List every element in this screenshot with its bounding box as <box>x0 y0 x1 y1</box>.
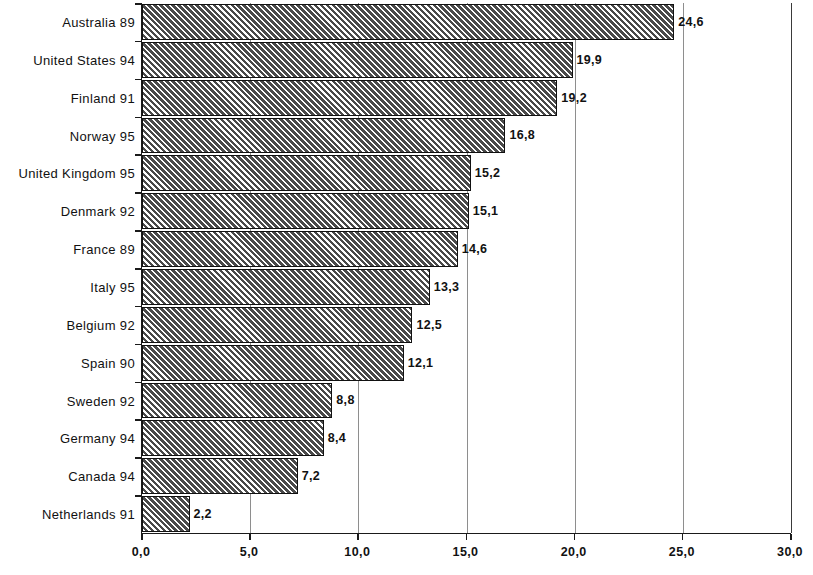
category-label: France 89 <box>73 242 135 257</box>
bar <box>142 118 505 154</box>
category-tick <box>135 382 141 384</box>
bar <box>142 269 430 305</box>
bar <box>142 307 412 343</box>
category-label: Italy 95 <box>90 279 135 294</box>
bar <box>142 420 324 456</box>
x-axis-tick <box>466 534 468 540</box>
bar-value-label: 15,2 <box>475 166 501 180</box>
x-axis-tick-label: 5,0 <box>240 545 259 559</box>
bar-value-label: 12,5 <box>416 318 442 332</box>
bar-value-label: 2,2 <box>194 507 212 521</box>
category-label: Norway 95 <box>70 128 135 143</box>
x-axis-tick-label: 30,0 <box>777 545 803 559</box>
bar <box>142 80 557 116</box>
bar <box>142 4 674 40</box>
x-axis-tick <box>574 534 576 540</box>
bar <box>142 383 332 419</box>
category-tick <box>135 419 141 421</box>
x-axis-tick-label: 25,0 <box>669 545 695 559</box>
bar-value-label: 8,8 <box>336 393 354 407</box>
bar <box>142 458 298 494</box>
category-tick <box>135 306 141 308</box>
category-label: Germany 94 <box>60 431 135 446</box>
bar-value-label: 12,1 <box>408 356 434 370</box>
bar-row: 19,9 <box>142 41 791 79</box>
bar-row: 16,8 <box>142 117 791 155</box>
bar-value-label: 8,4 <box>328 431 346 445</box>
category-label: Sweden 92 <box>67 393 135 408</box>
category-label: Spain 90 <box>81 355 135 370</box>
x-axis-tick <box>249 534 251 540</box>
bar-row: 14,6 <box>142 230 791 268</box>
x-axis-tick-label: 15,0 <box>453 545 479 559</box>
bar-value-label: 19,2 <box>561 91 587 105</box>
bar-row: 15,2 <box>142 154 791 192</box>
bar-row: 8,8 <box>142 382 791 420</box>
bar <box>142 42 573 78</box>
category-tick <box>135 192 141 194</box>
x-axis-tick-label: 0,0 <box>132 545 151 559</box>
x-axis-tick-label: 10,0 <box>344 545 370 559</box>
bar-value-label: 15,1 <box>473 204 499 218</box>
gridline-30-0 <box>791 3 792 533</box>
bar <box>142 496 190 532</box>
category-axis-labels: Australia 89United States 94Finland 91No… <box>0 3 135 533</box>
x-axis-tick-label: 20,0 <box>561 545 587 559</box>
bar-row: 15,1 <box>142 192 791 230</box>
category-label: Belgium 92 <box>66 317 135 332</box>
x-axis-tick <box>141 534 143 540</box>
category-label: Denmark 92 <box>61 204 135 219</box>
category-label: Finland 91 <box>71 90 135 105</box>
bar-value-label: 16,8 <box>509 128 535 142</box>
bar-row: 2,2 <box>142 495 791 533</box>
bar-value-label: 14,6 <box>462 242 488 256</box>
category-label: United States 94 <box>33 52 135 67</box>
category-tick <box>135 79 141 81</box>
bar <box>142 193 469 229</box>
category-label: United Kingdom 95 <box>18 166 135 181</box>
category-label: Australia 89 <box>62 14 135 29</box>
bar-rows: 24,619,919,216,815,215,114,613,312,512,1… <box>142 3 791 533</box>
category-tick <box>135 41 141 43</box>
bar-value-label: 7,2 <box>302 469 320 483</box>
category-tick <box>135 3 141 5</box>
bar <box>142 345 404 381</box>
category-tick <box>135 154 141 156</box>
bar-row: 7,2 <box>142 457 791 495</box>
category-tick <box>135 268 141 270</box>
x-axis-tick <box>357 534 359 540</box>
bar-row: 13,3 <box>142 268 791 306</box>
bar <box>142 231 458 267</box>
bar-row: 12,1 <box>142 344 791 382</box>
bar-chart: Australia 89United States 94Finland 91No… <box>0 0 813 575</box>
category-tick <box>135 117 141 119</box>
plot-area: 24,619,919,216,815,215,114,613,312,512,1… <box>141 3 791 534</box>
category-tick <box>135 457 141 459</box>
category-tick <box>135 344 141 346</box>
bar-value-label: 19,9 <box>577 53 603 67</box>
category-label: Canada 94 <box>68 469 135 484</box>
bar-row: 8,4 <box>142 419 791 457</box>
bar-row: 12,5 <box>142 306 791 344</box>
bar-value-label: 24,6 <box>678 15 704 29</box>
category-tick <box>135 495 141 497</box>
category-label: Netherlands 91 <box>42 507 135 522</box>
bar-row: 24,6 <box>142 3 791 41</box>
category-tick <box>135 230 141 232</box>
x-axis-tick <box>790 534 792 540</box>
bar-value-label: 13,3 <box>434 280 460 294</box>
bar <box>142 155 471 191</box>
bar-row: 19,2 <box>142 79 791 117</box>
x-axis-tick <box>682 534 684 540</box>
